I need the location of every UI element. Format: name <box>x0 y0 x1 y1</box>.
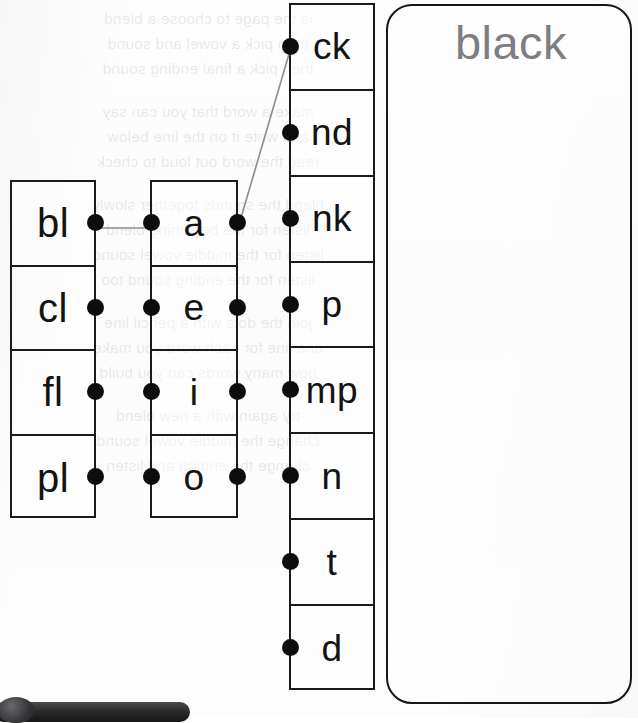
cell-label: t <box>327 544 338 581</box>
cell-onset-3[interactable]: pl <box>12 436 94 521</box>
column-initial-blends: bl cl fl pl <box>10 180 96 518</box>
cell-label: mp <box>306 372 358 409</box>
cell-vowel-1[interactable]: e <box>152 267 236 352</box>
cell-rime-1[interactable]: nd <box>291 91 373 177</box>
connector-dot[interactable] <box>229 383 246 400</box>
connector-dot[interactable] <box>143 299 160 316</box>
cell-label: nd <box>311 114 353 151</box>
cell-vowel-3[interactable]: o <box>152 436 236 521</box>
cell-vowel-0[interactable]: a <box>152 182 236 267</box>
connector-dot[interactable] <box>143 383 160 400</box>
connector-dot[interactable] <box>282 467 299 484</box>
cell-label: a <box>183 205 204 242</box>
cell-label: n <box>321 458 342 495</box>
connector-dot[interactable] <box>229 468 246 485</box>
cropped-device-knob <box>0 697 34 723</box>
connector-dot[interactable] <box>229 214 246 231</box>
connector-dot[interactable] <box>282 381 299 398</box>
cell-onset-2[interactable]: fl <box>12 351 94 436</box>
connector-dot[interactable] <box>87 383 104 400</box>
connector-dot[interactable] <box>282 124 299 141</box>
cell-label: cl <box>38 288 68 328</box>
cell-rime-2[interactable]: nk <box>291 177 373 263</box>
connector-dot[interactable] <box>282 296 299 313</box>
connector-dot[interactable] <box>143 214 160 231</box>
cell-rime-6[interactable]: t <box>291 520 373 606</box>
cell-rime-3[interactable]: p <box>291 263 373 349</box>
connector-dot[interactable] <box>87 214 104 231</box>
cell-label: i <box>190 374 199 411</box>
cell-onset-0[interactable]: bl <box>12 182 94 267</box>
connector-dot[interactable] <box>282 639 299 656</box>
cell-onset-1[interactable]: cl <box>12 267 94 352</box>
cell-rime-4[interactable]: mp <box>291 348 373 434</box>
cell-rime-7[interactable]: d <box>291 606 373 692</box>
cell-label: o <box>183 459 204 496</box>
connector-dot[interactable] <box>143 468 160 485</box>
cell-label: d <box>321 630 342 667</box>
column-final-endings: ck nd nk p mp n t d <box>289 3 375 690</box>
cell-label: p <box>321 286 342 323</box>
cell-vowel-2[interactable]: i <box>152 351 236 436</box>
cell-label: nk <box>312 200 352 237</box>
connector-dot[interactable] <box>282 553 299 570</box>
column-medial-vowels: a e i o <box>150 180 238 518</box>
cell-label: ck <box>313 28 351 65</box>
answer-panel[interactable]: black <box>386 4 632 704</box>
cell-rime-0[interactable]: ck <box>291 5 373 91</box>
connector-dot[interactable] <box>229 299 246 316</box>
cell-label: fl <box>43 372 64 412</box>
cell-rime-5[interactable]: n <box>291 434 373 520</box>
connector-dot[interactable] <box>282 210 299 227</box>
connector-dot[interactable] <box>87 299 104 316</box>
connector-dot[interactable] <box>282 38 299 55</box>
cell-label: e <box>183 289 204 326</box>
answer-word-text: black <box>388 19 634 66</box>
cell-label: bl <box>37 203 69 243</box>
connector-dot[interactable] <box>87 468 104 485</box>
cell-label: pl <box>37 458 69 498</box>
